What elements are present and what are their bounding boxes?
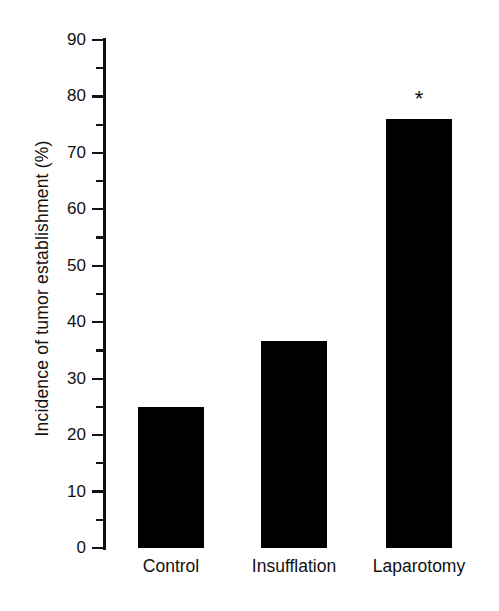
y-axis-major-tick (92, 547, 104, 549)
y-axis-title: Incidence of tumor establishment (%) (32, 54, 53, 524)
y-axis-minor-tick (96, 519, 104, 521)
y-axis-tick-label: 60 (50, 200, 86, 217)
y-axis-minor-tick (96, 180, 104, 182)
x-axis-category-label: Laparotomy (339, 556, 499, 577)
y-axis-major-tick (92, 152, 104, 154)
y-axis-minor-tick (96, 349, 104, 351)
y-axis-tick-label: 70 (50, 144, 86, 161)
y-axis-major-tick (92, 321, 104, 323)
y-axis-tick-label: 40 (50, 313, 86, 330)
bar (261, 341, 327, 548)
bar (138, 407, 204, 548)
y-axis-major-tick (92, 265, 104, 267)
bar (386, 119, 452, 548)
y-axis-major-tick (92, 490, 104, 492)
y-axis-minor-tick (96, 124, 104, 126)
y-axis-minor-tick (96, 293, 104, 295)
y-axis-minor-tick (96, 462, 104, 464)
significance-asterisk: * (379, 88, 459, 110)
y-axis-major-tick (92, 39, 104, 41)
y-axis-major-tick (92, 434, 104, 436)
y-axis-major-tick (92, 95, 104, 97)
y-axis-tick-label: 20 (50, 426, 86, 443)
y-axis-tick-label: 80 (50, 87, 86, 104)
y-axis-minor-tick (96, 67, 104, 69)
bar-chart: Incidence of tumor establishment (%) 010… (0, 0, 499, 611)
y-axis-tick-label: 10 (50, 483, 86, 500)
y-axis-tick-label: 30 (50, 370, 86, 387)
y-axis-minor-tick (96, 406, 104, 408)
y-axis-major-tick (92, 378, 104, 380)
y-axis-major-tick (92, 208, 104, 210)
y-axis-tick-label: 50 (50, 257, 86, 274)
y-axis-minor-tick (96, 236, 104, 238)
y-axis-tick-label: 0 (50, 539, 86, 556)
y-axis-tick-label: 90 (50, 31, 86, 48)
